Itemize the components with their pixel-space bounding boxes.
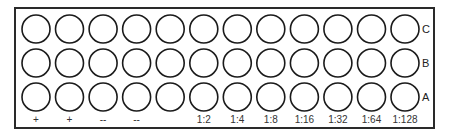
column-label: 1:4 bbox=[230, 114, 244, 125]
well-C2 bbox=[56, 15, 84, 43]
well-B5 bbox=[156, 49, 184, 77]
well-B11 bbox=[358, 49, 386, 77]
column-label: 1:8 bbox=[264, 114, 278, 125]
well-B9 bbox=[290, 49, 318, 77]
well-C5 bbox=[156, 15, 184, 43]
well-A9 bbox=[290, 83, 318, 111]
well-C3 bbox=[89, 15, 117, 43]
well-C8 bbox=[257, 15, 285, 43]
well-B6 bbox=[190, 49, 218, 77]
well-B7 bbox=[223, 49, 251, 77]
column-label: 1:16 bbox=[295, 114, 315, 125]
column-label: 1:128 bbox=[392, 114, 417, 125]
well-B2 bbox=[56, 49, 84, 77]
well-C12 bbox=[391, 15, 419, 43]
well-A10 bbox=[324, 83, 352, 111]
well-C1 bbox=[22, 15, 50, 43]
well-A12 bbox=[391, 83, 419, 111]
well-C9 bbox=[290, 15, 318, 43]
row-label-B: B bbox=[422, 57, 429, 69]
column-label: -- bbox=[100, 114, 107, 125]
column-label: 1:64 bbox=[362, 114, 382, 125]
column-label: + bbox=[33, 114, 39, 125]
well-C6 bbox=[190, 15, 218, 43]
well-A2 bbox=[56, 83, 84, 111]
well-C4 bbox=[123, 15, 151, 43]
well-C10 bbox=[324, 15, 352, 43]
well-A7 bbox=[223, 83, 251, 111]
well-A5 bbox=[156, 83, 184, 111]
well-A6 bbox=[190, 83, 218, 111]
row-label-A: A bbox=[422, 91, 430, 103]
row-label-C: C bbox=[422, 23, 430, 35]
well-B12 bbox=[391, 49, 419, 77]
well-A4 bbox=[123, 83, 151, 111]
column-label: + bbox=[67, 114, 73, 125]
well-B4 bbox=[123, 49, 151, 77]
well-C11 bbox=[358, 15, 386, 43]
well-A11 bbox=[358, 83, 386, 111]
well-A8 bbox=[257, 83, 285, 111]
column-label: -- bbox=[133, 114, 140, 125]
well-A1 bbox=[22, 83, 50, 111]
column-label: 1:32 bbox=[328, 114, 348, 125]
well-B3 bbox=[89, 49, 117, 77]
column-label: 1:2 bbox=[197, 114, 211, 125]
well-B1 bbox=[22, 49, 50, 77]
well-plate-diagram: CBA ++----1:21:41:81:161:321:641:128 bbox=[0, 0, 449, 137]
well-C7 bbox=[223, 15, 251, 43]
well-B10 bbox=[324, 49, 352, 77]
well-B8 bbox=[257, 49, 285, 77]
well-A3 bbox=[89, 83, 117, 111]
